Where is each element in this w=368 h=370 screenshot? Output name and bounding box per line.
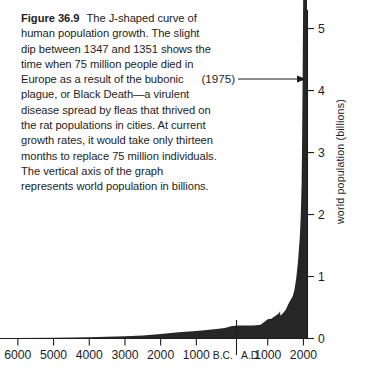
x-axis-ticks: 60005000400030002000100010002000 — [4, 339, 317, 362]
x-tick-label: 4000 — [76, 348, 103, 362]
y-tick-label: 1 — [318, 270, 325, 284]
population-curve-area — [0, 0, 307, 339]
annotation-1975-label: (1975) — [201, 72, 235, 85]
x-tick-label: 3000 — [111, 348, 138, 362]
annotation-1975: (1975) — [201, 72, 306, 85]
x-tick-label: 1000 — [183, 348, 210, 362]
y-tick-label: 0 — [318, 332, 325, 346]
y-tick-label: 4 — [318, 84, 325, 98]
y-tick-label: 5 — [318, 22, 325, 36]
x-tick-label: 6000 — [4, 348, 31, 362]
figure-population-growth: Figure 36.9The J-shaped curve of human p… — [0, 0, 368, 370]
chart-plot-area: 60005000400030002000100010002000 012345 … — [0, 0, 368, 370]
x-tick-label: 2000 — [290, 348, 317, 362]
era-label-bc: B.C. — [213, 350, 233, 361]
y-axis-title: world population (billions) — [334, 99, 346, 225]
x-tick-label: 2000 — [147, 348, 174, 362]
x-tick-label: 5000 — [40, 348, 67, 362]
y-axis-ticks: 012345 — [307, 22, 325, 346]
y-tick-label: 3 — [318, 146, 325, 160]
era-label-ad: A.D. — [241, 350, 261, 361]
y-tick-label: 2 — [318, 208, 325, 222]
